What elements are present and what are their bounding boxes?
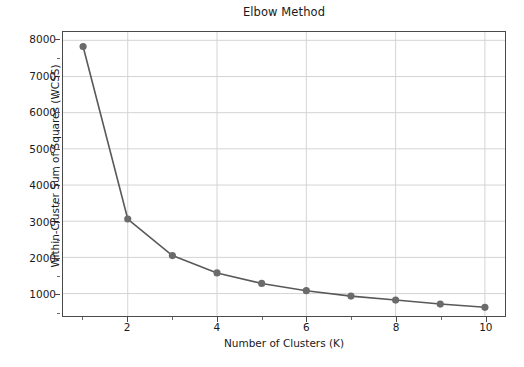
x-tick-label: 4 bbox=[197, 321, 237, 333]
data-point bbox=[124, 215, 131, 222]
chart-title: Elbow Method bbox=[62, 5, 506, 19]
data-point bbox=[258, 280, 265, 287]
x-tick-mark-minor bbox=[351, 317, 352, 320]
x-axis-label: Number of Clusters (K) bbox=[62, 337, 506, 349]
y-axis-label-wrapper: Within-Cluster Sum of Squares (WCSS) bbox=[0, 0, 24, 367]
data-point bbox=[169, 252, 176, 259]
data-point bbox=[481, 304, 488, 311]
x-tick-mark-minor bbox=[262, 317, 263, 320]
plot-area bbox=[62, 31, 506, 317]
x-axis-tick-labels: 246810 bbox=[62, 321, 506, 337]
x-tick-label: 6 bbox=[286, 321, 326, 333]
data-point bbox=[392, 297, 399, 304]
x-tick-mark bbox=[127, 317, 128, 322]
chart-figure: Elbow Method 100020003000400050006000700… bbox=[0, 0, 524, 367]
x-tick-label: 2 bbox=[107, 321, 147, 333]
x-tick-mark bbox=[306, 317, 307, 322]
x-tick-mark-minor bbox=[82, 317, 83, 320]
x-tick-label: 8 bbox=[376, 321, 416, 333]
data-point bbox=[303, 287, 310, 294]
x-tick-label: 10 bbox=[466, 321, 506, 333]
data-point bbox=[437, 300, 444, 307]
x-tick-mark bbox=[486, 317, 487, 322]
x-tick-mark bbox=[396, 317, 397, 322]
data-point bbox=[347, 293, 354, 300]
y-axis-label: Within-Cluster Sum of Squares (WCSS) bbox=[49, 23, 61, 309]
y-tick-mark-minor bbox=[57, 313, 60, 314]
x-tick-mark bbox=[217, 317, 218, 322]
data-series-wcss bbox=[63, 32, 505, 316]
x-tick-mark-minor bbox=[441, 317, 442, 320]
x-tick-mark-minor bbox=[172, 317, 173, 320]
data-point bbox=[80, 43, 87, 50]
data-point bbox=[213, 269, 220, 276]
